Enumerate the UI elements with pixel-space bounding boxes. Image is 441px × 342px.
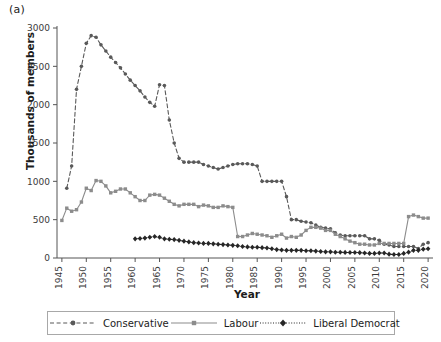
y-tick-label: 0 [44, 253, 50, 263]
plot-area: 0500100015002000250030001945195019551960… [0, 0, 441, 342]
y-tick-label: 500 [33, 215, 50, 225]
x-tick-label: 1955 [103, 266, 113, 289]
chart-figure: (a) Thousands of members Year 0500100015… [0, 0, 441, 342]
x-tick-label: 1950 [78, 266, 88, 289]
x-tick-label: 1990 [274, 266, 284, 289]
x-tick-label: 1945 [54, 266, 64, 289]
x-tick-label: 2020 [420, 266, 430, 289]
legend-swatch-liberal-democrat [258, 317, 308, 329]
x-tick-label: 1980 [225, 266, 235, 289]
legend-item-liberal-democrat[interactable]: Liberal Democrat [258, 317, 399, 329]
x-tick-label: 1970 [176, 266, 186, 289]
x-tick-label: 1960 [127, 266, 137, 289]
legend-item-conservative[interactable]: Conservative [48, 317, 169, 329]
x-tick-label: 2010 [371, 266, 381, 289]
x-tick-label: 2005 [347, 266, 357, 289]
legend-label-labour: Labour [224, 318, 259, 329]
legend-swatch-labour [169, 317, 219, 329]
series-liberal-democrat [133, 234, 431, 257]
x-tick-label: 1985 [249, 266, 259, 289]
x-tick-label: 2015 [396, 266, 406, 289]
y-tick-label: 2500 [27, 62, 50, 72]
y-tick-label: 1000 [27, 177, 50, 187]
legend-swatch-conservative [48, 317, 98, 329]
x-tick-label: 1995 [298, 266, 308, 289]
y-tick-label: 3000 [27, 23, 50, 33]
x-tick-label: 1975 [200, 266, 210, 289]
series-labour [60, 179, 430, 247]
y-tick-label: 2000 [27, 100, 50, 110]
legend-label-conservative: Conservative [103, 318, 169, 329]
legend-item-labour[interactable]: Labour [169, 317, 259, 329]
x-tick-label: 1965 [152, 266, 162, 289]
legend-label-liberal-democrat: Liberal Democrat [313, 318, 399, 329]
chart-legend: Conservative Labour Liberal Democrat [47, 311, 395, 335]
series-conservative [65, 34, 430, 250]
y-tick-label: 1500 [27, 138, 50, 148]
x-tick-label: 2000 [322, 266, 332, 289]
